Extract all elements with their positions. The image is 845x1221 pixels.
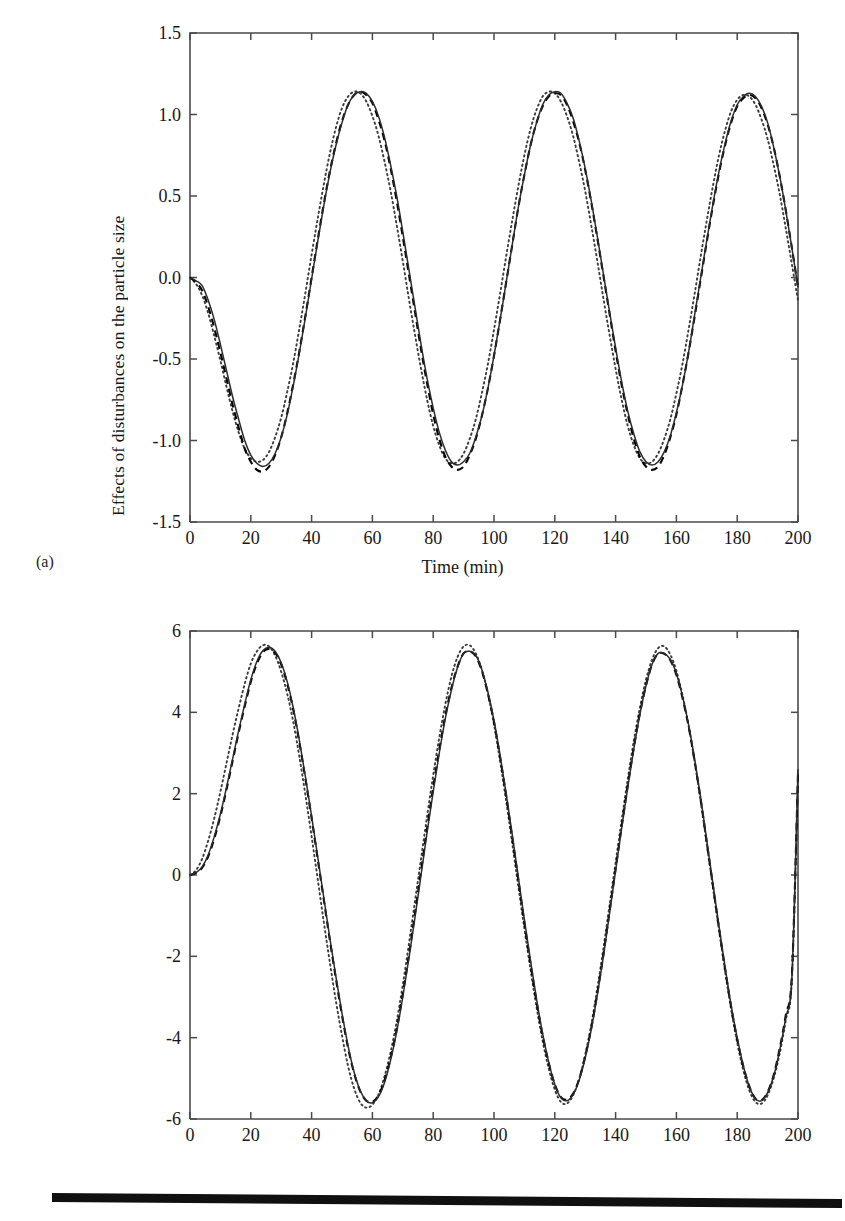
plot-area-a: 020406080100120140160180200-1.5-1.0-0.50… xyxy=(0,0,845,600)
svg-text:0: 0 xyxy=(186,1125,195,1145)
series-line-solid xyxy=(190,647,798,1103)
svg-text:0: 0 xyxy=(186,528,195,548)
svg-text:160: 160 xyxy=(663,528,690,548)
svg-text:120: 120 xyxy=(541,528,568,548)
svg-text:40: 40 xyxy=(303,528,321,548)
svg-text:20: 20 xyxy=(242,1125,260,1145)
svg-text:40: 40 xyxy=(303,1125,321,1145)
svg-text:4: 4 xyxy=(172,702,181,722)
svg-text:200: 200 xyxy=(785,1125,812,1145)
svg-text:60: 60 xyxy=(363,528,381,548)
chart-panel-a: Effects of disturbances on the particle … xyxy=(0,0,845,600)
svg-text:180: 180 xyxy=(724,1125,751,1145)
series-line-dotted xyxy=(190,91,798,463)
svg-text:200: 200 xyxy=(785,528,812,548)
svg-text:0.0: 0.0 xyxy=(159,268,182,288)
svg-text:-2: -2 xyxy=(166,946,181,966)
svg-text:140: 140 xyxy=(602,1125,629,1145)
panel-tag-a: (a) xyxy=(36,553,54,571)
svg-text:120: 120 xyxy=(541,1125,568,1145)
svg-text:60: 60 xyxy=(363,1125,381,1145)
svg-text:80: 80 xyxy=(424,1125,442,1145)
figure-container: Effects of disturbances on the particle … xyxy=(0,0,845,1221)
svg-text:1.5: 1.5 xyxy=(159,23,182,43)
svg-text:1.0: 1.0 xyxy=(159,105,182,125)
series-line-solid xyxy=(190,92,798,467)
chart-panel-b: Effects of disturbances on the circulati… xyxy=(0,598,845,1198)
svg-text:0.5: 0.5 xyxy=(159,186,182,206)
svg-text:0: 0 xyxy=(172,865,181,885)
svg-text:160: 160 xyxy=(663,1125,690,1145)
svg-text:100: 100 xyxy=(481,528,508,548)
plot-area-b: 020406080100120140160180200-6-4-20246 xyxy=(0,598,845,1198)
svg-text:80: 80 xyxy=(424,528,442,548)
svg-text:-4: -4 xyxy=(166,1028,181,1048)
series-line-dotted xyxy=(190,645,798,1108)
svg-text:-0.5: -0.5 xyxy=(153,349,182,369)
svg-text:2: 2 xyxy=(172,784,181,804)
svg-text:180: 180 xyxy=(724,528,751,548)
svg-text:6: 6 xyxy=(172,621,181,641)
svg-text:-6: -6 xyxy=(166,1109,181,1129)
svg-text:100: 100 xyxy=(481,1125,508,1145)
svg-text:20: 20 xyxy=(242,528,260,548)
svg-text:-1.5: -1.5 xyxy=(153,512,182,532)
x-axis-label-a: Time (min) xyxy=(0,557,845,578)
svg-text:-1.0: -1.0 xyxy=(153,431,182,451)
svg-text:140: 140 xyxy=(602,528,629,548)
